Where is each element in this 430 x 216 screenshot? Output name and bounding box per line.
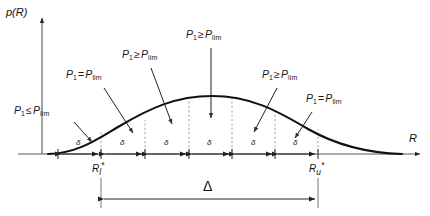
y-axis-label: p(R) (6, 6, 27, 18)
bin-label-delta-1: δ (76, 138, 80, 147)
bin-label-delta-6: δ (293, 138, 297, 147)
bin-label-delta-3: δ (164, 138, 168, 147)
annotation-a5: P1≥Plim (262, 68, 297, 81)
lower-bound-label: Rl* (92, 160, 104, 177)
annotation-a6: P1=Plim (306, 92, 342, 105)
annotation-a2: P1=Plim (66, 68, 102, 81)
density-curve (48, 96, 402, 154)
upper-bound-label: Ru* (309, 160, 324, 177)
annotation-a4-plim-sub: lim (212, 34, 221, 41)
upper-bound-sup: * (321, 160, 324, 170)
arrow-a6 (295, 112, 312, 138)
lower-bound-sup: * (101, 160, 104, 170)
annotation-a3: P1≥Plim (122, 48, 157, 61)
annotation-a3-plim-sub: lim (148, 54, 157, 61)
arrow-a3 (151, 68, 172, 124)
annotation-a4: P1≥Plim (186, 28, 221, 41)
x-axis-label: R (409, 132, 417, 144)
annotation-a1-plim-sub: lim (40, 110, 49, 117)
annotation-a1: P1≤Plim (14, 104, 49, 117)
delta-span-label: Δ (203, 178, 212, 194)
annotation-arrows (74, 48, 312, 142)
annotation-a1-rel: ≤ (25, 104, 33, 116)
bin-label-delta-5: δ (251, 138, 255, 147)
annotation-a3-rel: ≥ (133, 48, 141, 60)
bin-label-delta-4: δ (207, 138, 211, 147)
annotation-a5-plim-sub: lim (288, 74, 297, 81)
annotation-a6-plim-sub: lim (332, 98, 341, 105)
annotation-a5-rel: ≥ (273, 68, 281, 80)
annotation-a4-rel: ≥ (197, 28, 205, 40)
annotation-a2-plim-sub: lim (92, 74, 101, 81)
bin-label-delta-2: δ (120, 138, 124, 147)
figure-container: p(R) R δ δ δ δ δ δ Rl* Ru* Δ P1≤Plim P1=… (0, 0, 430, 216)
